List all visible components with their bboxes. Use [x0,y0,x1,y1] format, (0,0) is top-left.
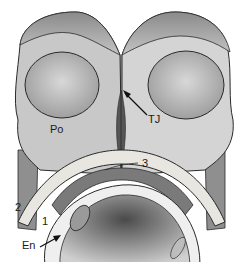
label-1: 1 [42,216,48,227]
cell-left [15,12,122,175]
diagram-canvas [0,0,243,279]
label-po: Po [50,124,63,135]
label-en: En [22,240,35,251]
label-2: 2 [15,202,21,213]
label-tj: TJ [148,114,160,125]
nucleus-left [25,52,99,118]
cell-right [122,12,233,175]
nucleus-right [148,51,224,119]
label-3: 3 [142,158,148,169]
